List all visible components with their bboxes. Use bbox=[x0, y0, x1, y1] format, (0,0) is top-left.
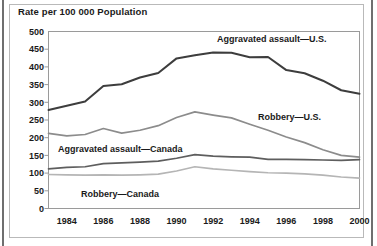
y-tick-label: 300 bbox=[29, 98, 44, 108]
x-tick-label: 1988 bbox=[130, 216, 150, 226]
x-tick-label: 1996 bbox=[276, 216, 296, 226]
y-axis-tick-labels: 050100150200250300350400450500 bbox=[29, 27, 44, 214]
y-tick-label: 500 bbox=[29, 27, 44, 37]
y-tick-label: 350 bbox=[29, 80, 44, 90]
series-annotation-label: Robbery—U.S. bbox=[258, 112, 321, 122]
y-tick-label: 100 bbox=[29, 168, 44, 178]
x-axis-tick-labels: 198419861988199019921994199619982000 bbox=[57, 216, 370, 226]
series-annotation-label: Aggravated assault—U.S. bbox=[217, 34, 327, 44]
y-tick-label: 250 bbox=[29, 115, 44, 125]
y-tick-label: 450 bbox=[29, 44, 44, 54]
line-chart-svg: 050100150200250300350400450500 198419861… bbox=[0, 0, 377, 246]
x-tick-label: 1992 bbox=[203, 216, 223, 226]
y-tick-label: 50 bbox=[34, 186, 44, 196]
x-tick-label: 1984 bbox=[57, 216, 77, 226]
chart-figure: Rate per 100 000 Population 050100150200… bbox=[0, 0, 377, 246]
y-tick-label: 150 bbox=[29, 151, 44, 161]
series-annotation-label: Aggravated assault—Canada bbox=[58, 144, 184, 154]
y-axis-ticks bbox=[45, 49, 49, 208]
x-tick-label: 1986 bbox=[93, 216, 113, 226]
x-tick-label: 1994 bbox=[240, 216, 260, 226]
series-line bbox=[49, 52, 360, 110]
y-tick-label: 200 bbox=[29, 133, 44, 143]
x-tick-label: 1990 bbox=[167, 216, 187, 226]
y-tick-label: 0 bbox=[39, 204, 44, 214]
series-annotation-label: Robbery—Canada bbox=[81, 189, 160, 199]
x-tick-label: 1998 bbox=[313, 216, 333, 226]
series-line bbox=[49, 155, 360, 169]
y-tick-label: 400 bbox=[29, 62, 44, 72]
series-line bbox=[49, 167, 360, 178]
x-tick-label: 2000 bbox=[349, 216, 369, 226]
